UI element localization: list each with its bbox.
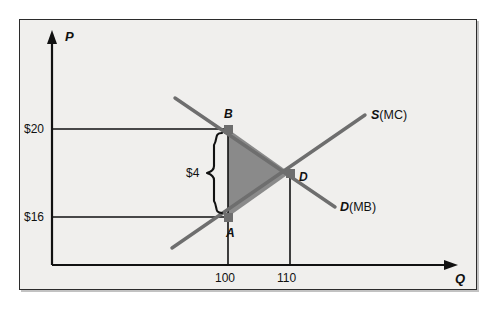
point-marker-b (224, 125, 233, 134)
quantity-axis-arrowhead (444, 260, 458, 270)
x-tick-label-110: 110 (277, 272, 296, 284)
price-axis-label: P (65, 30, 74, 43)
y-tick-label-16: $16 (24, 211, 44, 223)
economics-supply-demand-figure: P Q $20 $16 100 110 B A D S(MC) D(MB) $4 (0, 0, 496, 311)
chart-drawing-surface (0, 0, 496, 311)
price-gap-brace (207, 133, 222, 213)
point-marker-d (286, 169, 295, 178)
point-marker-a (224, 213, 233, 222)
y-tick-label-20: $20 (24, 123, 44, 135)
demand-curve-label-suffix: (MB) (349, 200, 376, 214)
supply-curve-label: S(MC) (371, 109, 407, 122)
quantity-axis-label: Q (455, 272, 465, 285)
point-label-b: B (224, 108, 233, 120)
point-label-a: A (226, 227, 235, 239)
supply-curve-label-suffix: (MC) (379, 108, 407, 122)
demand-curve-label-symbol: D (340, 200, 349, 214)
point-label-d: D (299, 171, 308, 183)
supply-marginal-cost-curve (172, 115, 365, 248)
demand-curve-label: D(MB) (340, 201, 376, 214)
price-gap-label: $4 (186, 167, 199, 179)
price-axis-arrowhead (47, 30, 57, 44)
x-tick-label-100: 100 (215, 272, 235, 284)
